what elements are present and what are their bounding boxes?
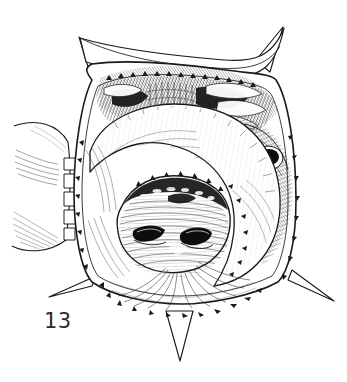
figure-number-label: 13: [44, 311, 72, 332]
figure-page: 13: [0, 0, 347, 382]
left-appendage: [12, 123, 77, 254]
